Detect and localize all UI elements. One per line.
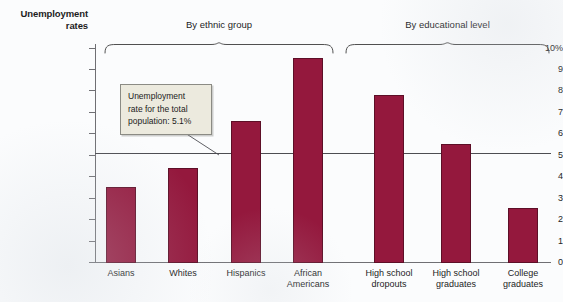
total-population-reference-line bbox=[95, 153, 551, 154]
x-label-high-school-dropouts-line1: High school bbox=[356, 268, 422, 279]
y-tick-label-6: 6 bbox=[483, 129, 563, 138]
x-label-african-americans: African Americans bbox=[278, 268, 338, 290]
x-label-hispanics: Hispanics bbox=[216, 268, 276, 279]
bracket-by-ethnic-group bbox=[104, 40, 334, 52]
bar-hispanics bbox=[231, 121, 261, 263]
bracket-label-by-educational-level: By educational level bbox=[345, 19, 550, 30]
y-tick-mark-1 bbox=[89, 241, 95, 242]
y-axis-title-line1: Unemployment bbox=[6, 8, 88, 20]
x-label-hispanics-line1: Hispanics bbox=[216, 268, 276, 279]
total-population-callout: Unemployment rate for the total populati… bbox=[120, 84, 212, 135]
y-tick-mark-6 bbox=[89, 133, 95, 134]
y-tick-label-8: 8 bbox=[483, 86, 563, 95]
x-label-high-school-graduates: High school graduates bbox=[423, 268, 489, 290]
bar-high-school-graduates bbox=[441, 144, 471, 263]
x-label-african-americans-line1: African bbox=[278, 268, 338, 279]
x-label-whites-line1: Whites bbox=[153, 268, 213, 279]
y-tick-label-7: 7 bbox=[483, 108, 563, 117]
bracket-by-educational-level-shape bbox=[345, 42, 550, 54]
y-tick-mark-8 bbox=[89, 90, 95, 91]
x-label-asians-line1: Asians bbox=[91, 268, 151, 279]
bracket-by-educational-level bbox=[345, 40, 550, 52]
y-tick-mark-7 bbox=[89, 112, 95, 113]
bar-college-graduates bbox=[508, 208, 538, 263]
y-tick-mark-5 bbox=[89, 155, 95, 156]
y-axis-title: Unemployment rates bbox=[6, 8, 88, 31]
y-tick-mark-10 bbox=[89, 48, 95, 49]
y-tick-label-9: 9 bbox=[483, 65, 563, 74]
callout-line2: rate for the total bbox=[128, 103, 205, 116]
bar-asians bbox=[106, 187, 136, 263]
y-tick-label-4: 4 bbox=[483, 172, 563, 181]
callout-line3: population: 5.1% bbox=[128, 115, 205, 128]
x-label-whites: Whites bbox=[153, 268, 213, 279]
bracket-label-by-ethnic-group: By ethnic group bbox=[104, 19, 334, 30]
bar-high-school-dropouts bbox=[374, 95, 404, 263]
x-label-college-graduates-line1: College bbox=[490, 268, 556, 279]
y-tick-label-3: 3 bbox=[483, 194, 563, 203]
x-label-high-school-graduates-line2: graduates bbox=[423, 279, 489, 290]
bar-whites bbox=[168, 168, 198, 263]
y-axis-title-line2: rates bbox=[6, 20, 88, 32]
x-label-high-school-graduates-line1: High school bbox=[423, 268, 489, 279]
bar-african-americans bbox=[293, 58, 323, 263]
unemployment-rates-bar-chart: Unemployment rates 10% 9 8 7 6 5 4 3 2 1… bbox=[0, 0, 563, 302]
x-label-african-americans-line2: Americans bbox=[278, 279, 338, 290]
x-label-asians: Asians bbox=[91, 268, 151, 279]
callout-line1: Unemployment bbox=[128, 90, 205, 103]
x-label-high-school-dropouts-line2: dropouts bbox=[356, 279, 422, 290]
y-tick-mark-4 bbox=[89, 176, 95, 177]
x-label-college-graduates-line2: graduates bbox=[490, 279, 556, 290]
y-tick-mark-3 bbox=[89, 198, 95, 199]
y-tick-mark-2 bbox=[89, 219, 95, 220]
x-label-college-graduates: College graduates bbox=[490, 268, 556, 290]
bracket-by-ethnic-group-shape bbox=[104, 42, 334, 54]
y-tick-mark-0 bbox=[89, 262, 95, 263]
x-label-high-school-dropouts: High school dropouts bbox=[356, 268, 422, 290]
y-tick-mark-9 bbox=[89, 69, 95, 70]
